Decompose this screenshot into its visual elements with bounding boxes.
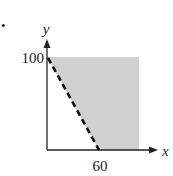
x-axis-label: x (161, 143, 169, 159)
x-tick-60: 60 (93, 158, 108, 174)
x-axis-arrow-icon (149, 147, 158, 154)
shaded-region (47, 57, 139, 150)
y-tick-100: 100 (22, 50, 45, 66)
inequality-graph: • y x 100 60 (0, 0, 173, 176)
bullet-marker: • (1, 18, 6, 33)
y-axis-label: y (41, 21, 50, 37)
y-axis-arrow-icon (44, 39, 51, 48)
